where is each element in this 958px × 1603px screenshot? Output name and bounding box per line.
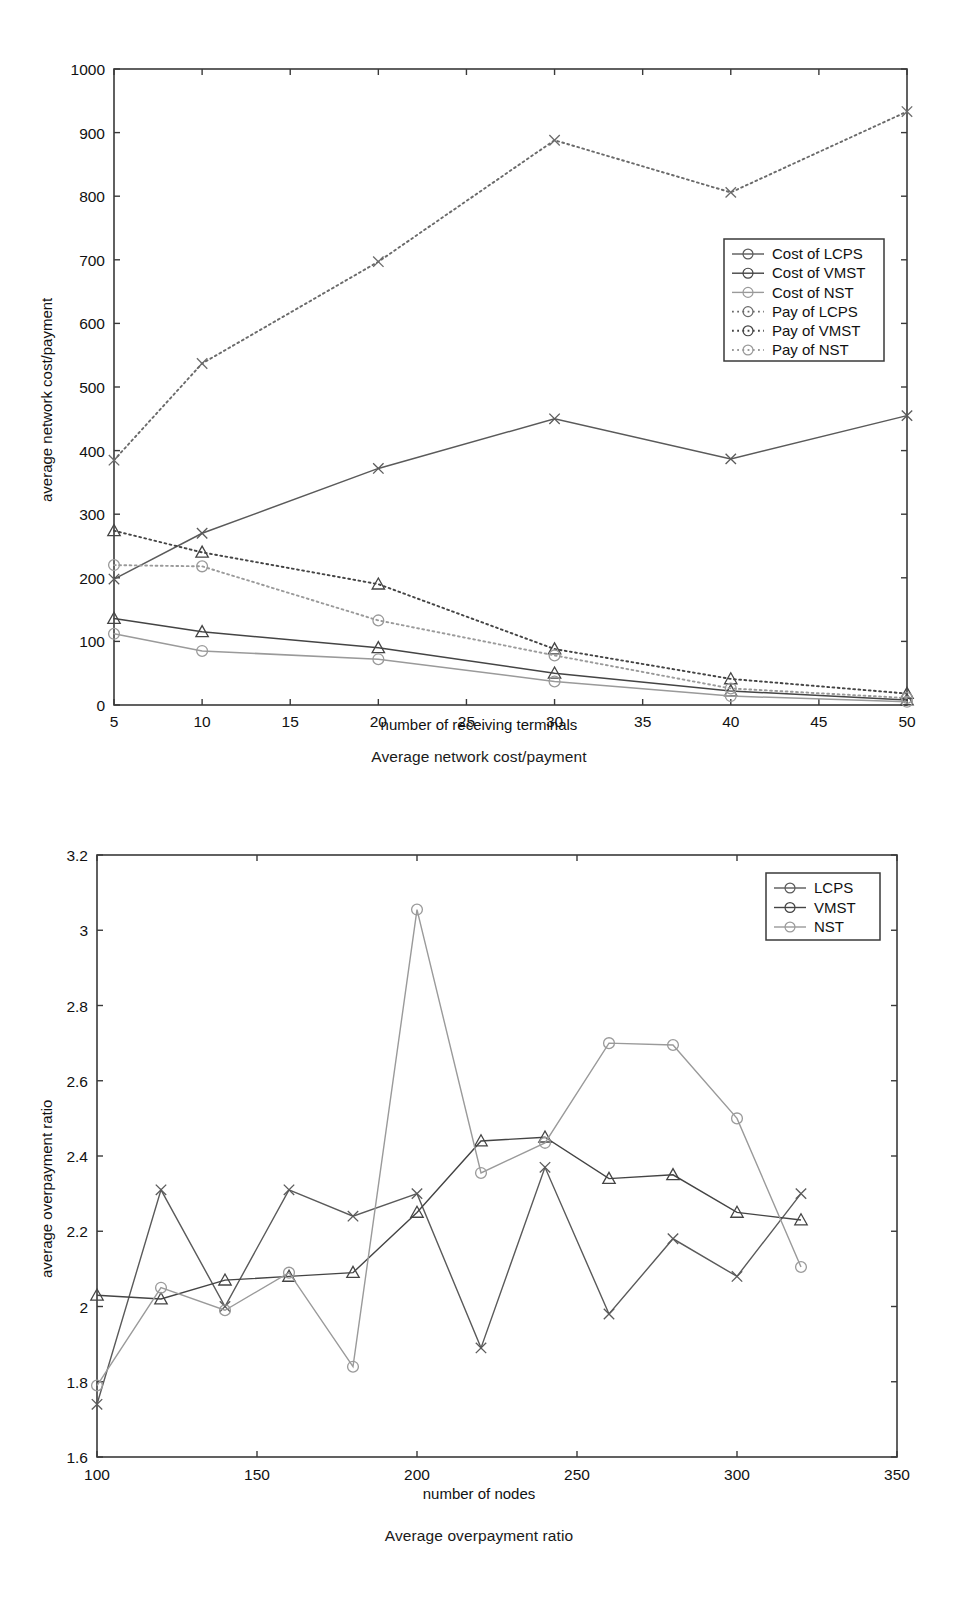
chart-1-ytick-label: 200 <box>79 570 105 587</box>
chart-1-ytick-label: 600 <box>79 315 105 332</box>
chart-2-xtick-label: 100 <box>84 1466 110 1483</box>
x-marker <box>197 358 207 368</box>
chart-1-series-pay-of-nst <box>109 560 913 704</box>
x-marker <box>732 1271 742 1281</box>
x-marker <box>156 1185 166 1195</box>
chart-2-xtick-label: 150 <box>244 1466 270 1483</box>
chart-2-line <box>97 910 801 1386</box>
chart-1-caption: Average network cost/payment <box>0 748 958 766</box>
chart-1-ytick-label: 900 <box>79 125 105 142</box>
circle-marker <box>796 1262 807 1273</box>
chart-2-series-vmst <box>91 1131 807 1304</box>
chart-2-xtick-label: 350 <box>884 1466 910 1483</box>
x-marker <box>540 1162 550 1172</box>
chart-1-plot: 5101520253035404550010020030040050060070… <box>0 0 958 740</box>
x-marker <box>373 463 383 473</box>
x-marker <box>549 414 559 424</box>
chart-2-xaxis-label: number of nodes <box>0 1485 958 1502</box>
chart-1-ytick-label: 1000 <box>71 61 106 78</box>
x-marker <box>726 187 736 197</box>
chart-1-ytick-label: 300 <box>79 506 105 523</box>
chart-1-ytick-label: 500 <box>79 379 105 396</box>
chart-2-axes-frame <box>97 855 897 1457</box>
chart-2-ytick-label: 1.6 <box>66 1449 88 1466</box>
chart-2-xtick-label: 300 <box>724 1466 750 1483</box>
figure-average-network-cost-payment: 5101520253035404550010020030040050060070… <box>0 0 958 800</box>
chart-1-xaxis-label: number of receiving terminals <box>0 716 958 733</box>
x-marker <box>668 1234 678 1244</box>
chart-2-yaxis-label: average overpayment ratio <box>38 1100 55 1278</box>
chart-1-line <box>114 619 907 700</box>
x-marker <box>604 1309 614 1319</box>
legend-label: Cost of LCPS <box>772 245 863 262</box>
legend-label: Cost of NST <box>772 284 854 301</box>
chart-1-ytick-label: 400 <box>79 443 105 460</box>
x-marker <box>726 454 736 464</box>
chart-2-ytick-label: 3.2 <box>66 847 88 864</box>
chart-1-line <box>114 531 907 694</box>
chart-2-series-lcps <box>92 1162 806 1409</box>
chart-2-ytick-label: 2.2 <box>66 1223 88 1240</box>
chart-2-ytick-label: 2.6 <box>66 1073 88 1090</box>
chart-2-line <box>97 1167 801 1404</box>
chart-2-plot: 1001502002503003501.61.822.22.42.62.833.… <box>0 800 958 1500</box>
legend-label: Pay of NST <box>772 341 849 358</box>
chart-1-line <box>114 565 907 698</box>
chart-2-ytick-label: 3 <box>79 922 88 939</box>
legend-label: Cost of VMST <box>772 264 865 281</box>
chart-1-ytick-label: 0 <box>96 697 105 714</box>
chart-1-ytick-label: 100 <box>79 633 105 650</box>
chart-2-series-nst <box>92 904 807 1391</box>
chart-2-legend[interactable]: LCPSVMSTNST <box>766 873 880 940</box>
chart-2-svg: 1001502002503003501.61.822.22.42.62.833.… <box>0 800 958 1500</box>
chart-2-line <box>97 1137 801 1299</box>
x-marker <box>373 257 383 267</box>
legend-label: NST <box>814 918 844 935</box>
chart-2-ytick-label: 2.4 <box>66 1148 88 1165</box>
chart-1-series-cost-of-nst <box>109 628 913 707</box>
chart-2-caption: Average overpayment ratio <box>0 1527 958 1545</box>
chart-1-series-pay-of-vmst <box>108 525 913 699</box>
chart-1-line <box>114 416 907 579</box>
legend-label: LCPS <box>814 879 853 896</box>
x-marker <box>549 135 559 145</box>
chart-2-ytick-label: 2 <box>79 1299 88 1316</box>
chart-1-axes-frame <box>114 69 907 705</box>
chart-1-series-cost-of-lcps <box>109 410 912 584</box>
x-marker <box>476 1343 486 1353</box>
chart-2-xtick-label: 200 <box>404 1466 430 1483</box>
chart-1-ytick-label: 700 <box>79 252 105 269</box>
chart-1-yaxis-label: average network cost/payment <box>38 298 55 502</box>
chart-1-ytick-label: 800 <box>79 188 105 205</box>
legend-label: Pay of LCPS <box>772 303 858 320</box>
chart-1-legend[interactable]: Cost of LCPSCost of VMSTCost of NSTPay o… <box>724 239 884 361</box>
x-marker <box>796 1188 806 1198</box>
legend-label: VMST <box>814 899 856 916</box>
chart-2-xtick-label: 250 <box>564 1466 590 1483</box>
chart-2-ytick-label: 1.8 <box>66 1374 88 1391</box>
x-marker <box>412 1188 422 1198</box>
chart-2-ytick-label: 2.8 <box>66 998 88 1015</box>
x-marker <box>348 1211 358 1221</box>
x-marker <box>284 1185 294 1195</box>
x-marker <box>197 528 207 538</box>
figure-average-overpayment-ratio: 1001502002503003501.61.822.22.42.62.833.… <box>0 800 958 1603</box>
legend-label: Pay of VMST <box>772 322 860 339</box>
chart-1-svg: 5101520253035404550010020030040050060070… <box>0 0 958 740</box>
